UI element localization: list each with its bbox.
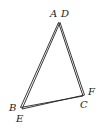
label-d: D: [60, 8, 69, 19]
label-a: A: [49, 8, 57, 19]
label-f: F: [87, 86, 96, 97]
triangle-def: [22, 23, 85, 110]
label-e: E: [15, 113, 24, 124]
label-b: B: [8, 102, 16, 113]
label-c: C: [80, 99, 88, 110]
triangle-diagram: A D B E C F: [0, 0, 104, 134]
triangle-abc: [21, 23, 84, 108]
